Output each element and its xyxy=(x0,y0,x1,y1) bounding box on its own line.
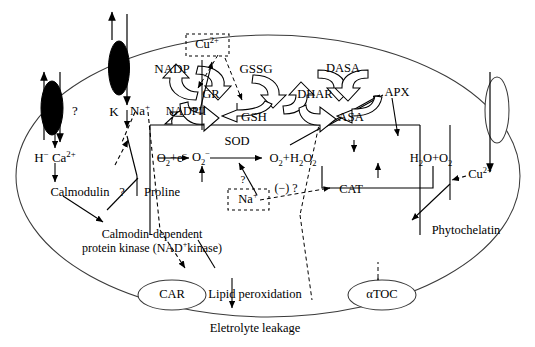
apx-label: APX xyxy=(384,86,409,99)
query-left-label: ? xyxy=(72,104,78,117)
calmodulin-label: Calmodulin xyxy=(50,186,109,199)
o2-h2o2-label: O2+H2O2 xyxy=(270,152,317,165)
na-label: Na+ xyxy=(130,104,150,117)
gssg-label: GSSG xyxy=(239,62,272,75)
arrow-cu-phytochelatin xyxy=(412,184,450,220)
k-label: K xyxy=(109,105,118,118)
dasa-label: DASA xyxy=(326,62,360,75)
kinase-label-line1: Calmodin-dependent xyxy=(102,228,203,240)
proline-label: Proline xyxy=(144,186,180,199)
cat-label: CAT xyxy=(339,183,363,196)
dhar-label: DHAR xyxy=(297,88,332,101)
query-mid-label: ? xyxy=(119,186,125,199)
phytochelatin-label: Phytochelatin xyxy=(432,224,501,237)
electrolyte-leakage-label: Eletrolyte leakage xyxy=(210,322,301,335)
dashed-to-nadpii xyxy=(115,140,128,165)
inner-box-left xyxy=(150,125,420,235)
diagram-canvas: ? K Na+ NADPII H− Ca2+ Calmodulin ? Prol… xyxy=(0,0,535,347)
na-box-label: Na+ xyxy=(238,193,257,206)
cu-right-label: Cu2+ xyxy=(468,168,492,181)
neg-query-label: (−) ? xyxy=(274,182,297,194)
h-ca-label: H− Ca2+ xyxy=(34,151,75,164)
cu-box-label: Cu2+ xyxy=(195,38,219,51)
lipid-peroxidation-label: Lipid peroxidation xyxy=(208,288,301,301)
kinase-label-line2: protein kinase (NAD+kinase) xyxy=(82,242,222,254)
atoc-label: αTOC xyxy=(366,288,397,301)
cell-membrane-outline xyxy=(16,35,520,317)
sod-label: SOD xyxy=(224,135,249,148)
line-apx-down xyxy=(392,98,398,136)
asa-label: ASA xyxy=(338,110,364,123)
nadp-label: NADP xyxy=(154,62,189,75)
hollow-arrow-asa xyxy=(299,105,336,132)
car-label: CAR xyxy=(159,288,185,301)
channel-right-open xyxy=(485,77,509,143)
na-query-label: ? xyxy=(241,174,246,185)
dashed-cu-left xyxy=(452,176,466,180)
h2o-o2-label: H2O+O2 xyxy=(410,152,453,165)
nadpii-label: NADPII xyxy=(166,105,207,117)
dashed-lower-curve xyxy=(300,215,312,300)
dashed-cat-branch xyxy=(260,120,378,300)
channel-na-filled xyxy=(109,41,130,95)
arrow-calmodulin-kinase xyxy=(63,196,103,222)
line-proline-up2 xyxy=(127,136,137,176)
o2-electron-label: O2+e− xyxy=(157,152,188,165)
gsh-label: GSH xyxy=(241,110,267,123)
superoxide-label: O2− xyxy=(192,151,210,164)
gr-label: GR xyxy=(202,88,219,101)
